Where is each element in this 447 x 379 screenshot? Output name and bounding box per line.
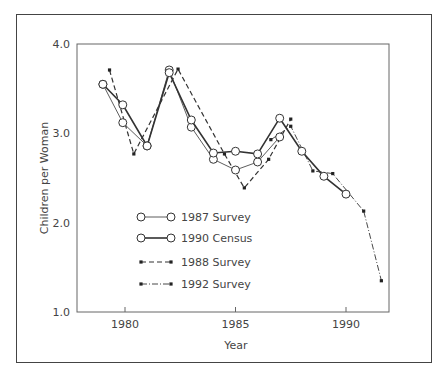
legend-marker-dot bbox=[139, 282, 142, 285]
data-point-dot bbox=[362, 209, 365, 212]
data-point-open-circle bbox=[143, 142, 151, 150]
x-axis: 198019851990 bbox=[111, 307, 360, 331]
plot-area bbox=[77, 44, 389, 312]
data-point-dot bbox=[267, 158, 270, 161]
y-tick-label: 3.0 bbox=[53, 127, 71, 140]
legend-marker-dot bbox=[169, 260, 172, 263]
data-point-open-circle bbox=[165, 69, 173, 77]
data-point-dot bbox=[380, 279, 383, 282]
data-point-open-circle bbox=[276, 114, 284, 122]
data-point-open-circle bbox=[320, 172, 328, 180]
series-layer bbox=[99, 66, 383, 282]
series-1990-census bbox=[99, 69, 350, 198]
x-tick-label: 1990 bbox=[332, 318, 360, 331]
data-point-open-circle bbox=[209, 149, 217, 157]
y-tick-label: 1.0 bbox=[53, 306, 71, 319]
series-1992-survey bbox=[269, 125, 383, 283]
data-point-open-circle bbox=[187, 116, 195, 124]
y-axis-title: Children per Woman bbox=[38, 122, 51, 234]
data-point-dot bbox=[269, 138, 272, 141]
data-point-dot bbox=[311, 169, 314, 172]
y-tick-label: 4.0 bbox=[53, 38, 71, 51]
series-line bbox=[271, 126, 382, 280]
data-point-open-circle bbox=[119, 119, 127, 127]
y-axis: 1.02.03.04.0 bbox=[53, 38, 71, 319]
legend-item: 1990 Census bbox=[137, 232, 253, 245]
legend-marker-dot bbox=[169, 282, 172, 285]
data-point-open-circle bbox=[254, 150, 262, 158]
legend-label: 1992 Survey bbox=[181, 278, 251, 291]
legend-marker-dot bbox=[139, 260, 142, 263]
data-point-open-circle bbox=[232, 166, 240, 174]
data-point-dot bbox=[289, 118, 292, 121]
data-point-open-circle bbox=[99, 80, 107, 88]
data-point-open-circle bbox=[254, 158, 262, 166]
data-point-open-circle bbox=[342, 190, 350, 198]
legend-item: 1992 Survey bbox=[139, 278, 251, 291]
y-tick-label: 2.0 bbox=[53, 217, 71, 230]
data-point-dot bbox=[108, 68, 111, 71]
x-tick-label: 1980 bbox=[111, 318, 139, 331]
legend: 1987 Survey1990 Census1988 Survey1992 Su… bbox=[137, 211, 253, 291]
legend-label: 1988 Survey bbox=[181, 256, 251, 269]
data-point-dot bbox=[132, 152, 135, 155]
data-point-dot bbox=[243, 186, 246, 189]
legend-marker-open-circle bbox=[137, 234, 145, 242]
series-1988-survey bbox=[108, 68, 292, 190]
x-axis-title: Year bbox=[223, 339, 248, 352]
series-line bbox=[103, 73, 346, 194]
plot-border bbox=[77, 44, 389, 312]
data-point-dot bbox=[176, 68, 179, 71]
data-point-open-circle bbox=[232, 147, 240, 155]
legend-marker-open-circle bbox=[137, 213, 145, 221]
legend-label: 1990 Census bbox=[181, 232, 253, 245]
data-point-open-circle bbox=[276, 133, 284, 141]
data-point-dot bbox=[331, 172, 334, 175]
x-tick-label: 1985 bbox=[222, 318, 250, 331]
data-point-open-circle bbox=[298, 147, 306, 155]
data-point-dot bbox=[289, 125, 292, 128]
legend-item: 1987 Survey bbox=[137, 211, 251, 224]
legend-label: 1987 Survey bbox=[181, 211, 251, 224]
legend-item: 1988 Survey bbox=[139, 256, 251, 269]
legend-marker-open-circle bbox=[167, 213, 175, 221]
legend-marker-open-circle bbox=[167, 234, 175, 242]
chart: 1.02.03.04.0 198019851990 Year Children … bbox=[0, 0, 447, 379]
data-point-open-circle bbox=[119, 101, 127, 109]
